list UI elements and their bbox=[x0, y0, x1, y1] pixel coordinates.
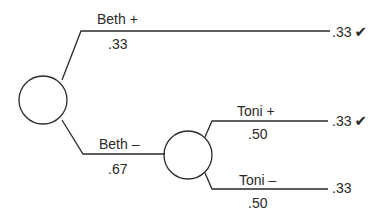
toni-plus-label: Toni + bbox=[237, 104, 275, 118]
beth-plus-probability: .33 bbox=[108, 37, 127, 51]
beth-plus-label: Beth + bbox=[97, 12, 138, 26]
root-chance-node bbox=[19, 76, 67, 124]
beth-plus-outcome: .33✔ bbox=[332, 25, 367, 39]
outcome-value: .33 bbox=[332, 113, 351, 129]
outcome-value: .33 bbox=[332, 24, 351, 40]
beth-minus-probability: .67 bbox=[108, 162, 127, 176]
decision-tree-diagram bbox=[0, 0, 386, 215]
toni-plus-outcome: .33✔ bbox=[332, 114, 367, 128]
checkmark-icon: ✔ bbox=[354, 23, 367, 40]
toni-plus-probability: .50 bbox=[248, 127, 267, 141]
toni-minus-outcome: .33 bbox=[332, 181, 351, 195]
toni-minus-label: Toni – bbox=[239, 173, 276, 187]
sub-chance-node bbox=[164, 131, 212, 179]
branch-beth-plus bbox=[62, 31, 330, 80]
toni-minus-probability: .50 bbox=[248, 196, 267, 210]
checkmark-icon: ✔ bbox=[354, 112, 367, 129]
beth-minus-label: Beth – bbox=[99, 137, 139, 151]
